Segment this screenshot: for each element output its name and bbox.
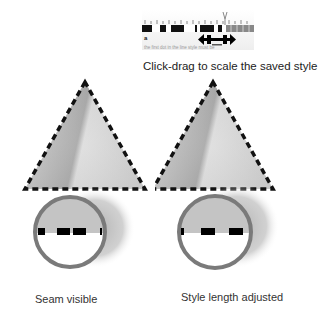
instruction-caption: Click-drag to scale the saved style.	[143, 60, 318, 72]
svg-text:the first dot in the line styl: the first dot in the line style must be	[144, 45, 215, 50]
panel-seam-visible	[0, 78, 160, 273]
label-style-adjusted: Style length adjusted	[181, 291, 283, 303]
ruler-strip: a a the first dot in the line style must…	[142, 10, 254, 50]
label-seam-visible: Seam visible	[35, 293, 97, 305]
ruler-graphic: a a the first dot in the line style must…	[142, 10, 254, 50]
panel-style-adjusted	[155, 78, 318, 273]
